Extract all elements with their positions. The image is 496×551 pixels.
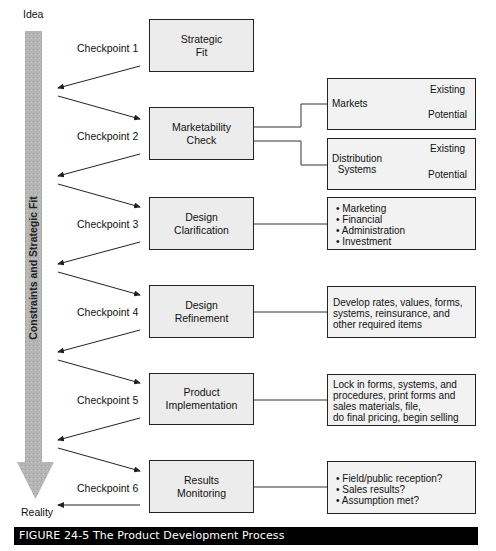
list-item: Administration	[336, 225, 475, 236]
constraints-label-wrap: Constraints and Strategic Fit	[21, 78, 45, 458]
reality-label: Reality	[21, 506, 53, 518]
stage-marketability-check: Marketability Check	[149, 107, 254, 160]
markets-label: Markets	[332, 98, 368, 109]
list-item: Sales results?	[336, 484, 475, 495]
constraints-label: Constraints and Strategic Fit	[27, 196, 39, 340]
refinement-box: Develop rates, values, forms, systems, r…	[327, 286, 476, 338]
checkpoint-4-label: Checkpoint 4	[77, 306, 138, 318]
clarification-box: Marketing Financial Administration Inves…	[327, 197, 476, 250]
stage-design-clarification: Design Clarification	[149, 197, 254, 250]
checkpoint-2-label: Checkpoint 2	[77, 130, 138, 142]
checkpoint-1-label: Checkpoint 1	[77, 42, 138, 54]
checkpoint-5-label: Checkpoint 5	[77, 394, 138, 406]
figure-caption: FIGURE 24-5 The Product Development Proc…	[14, 527, 478, 545]
list-item: Field/public reception?	[336, 473, 475, 484]
list-item: Assumption met?	[336, 495, 475, 506]
list-item: Investment	[336, 236, 475, 247]
distribution-potential: Potential	[428, 169, 467, 180]
idea-label: Idea	[23, 8, 43, 20]
monitoring-box: Field/public reception? Sales results? A…	[327, 461, 476, 514]
distribution-label: Distribution Systems	[332, 153, 382, 175]
clarification-list: Marketing Financial Administration Inves…	[336, 203, 475, 247]
markets-existing: Existing	[430, 84, 465, 95]
distribution-box: Distribution Systems Existing Potential	[327, 138, 476, 190]
checkpoint-3-label: Checkpoint 3	[77, 218, 138, 230]
markets-box: Markets Existing Potential	[327, 78, 476, 130]
list-item: Financial	[336, 214, 475, 225]
checkpoint-6-label: Checkpoint 6	[77, 482, 138, 494]
markets-potential: Potential	[428, 109, 467, 120]
implementation-box: Lock in forms, systems, and procedures, …	[327, 374, 476, 426]
stage-results-monitoring: Results Monitoring	[149, 460, 254, 513]
stage-strategic-fit: Strategic Fit	[149, 19, 254, 72]
distribution-existing: Existing	[430, 143, 465, 154]
monitoring-list: Field/public reception? Sales results? A…	[336, 473, 475, 506]
stage-design-refinement: Design Refinement	[149, 285, 254, 338]
list-item: Marketing	[336, 203, 475, 214]
stage-product-implementation: Product Implementation	[149, 373, 254, 425]
